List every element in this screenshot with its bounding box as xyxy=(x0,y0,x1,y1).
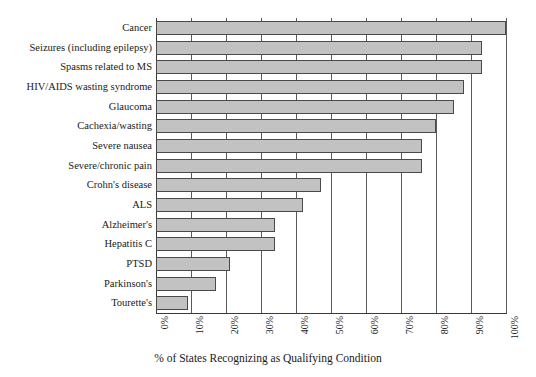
bar xyxy=(156,139,422,153)
bar-row xyxy=(156,218,506,232)
tick-label: 80% xyxy=(440,316,450,334)
bar-row xyxy=(156,100,506,114)
tick-label: 100% xyxy=(510,316,520,339)
category-label: Alzheimer's xyxy=(2,219,152,230)
bar-row xyxy=(156,21,506,35)
category-label: PTSD xyxy=(2,258,152,269)
bar-row xyxy=(156,198,506,212)
bar-row xyxy=(156,60,506,74)
category-label: Crohn's disease xyxy=(2,179,152,190)
category-label: HIV/AIDS wasting syndrome xyxy=(2,81,152,92)
bar-row xyxy=(156,80,506,94)
category-label: ALS xyxy=(2,199,152,210)
bar xyxy=(156,198,303,212)
category-label: Seizures (including epilepsy) xyxy=(2,42,152,53)
bar-row xyxy=(156,277,506,291)
bar-chart: CancerSeizures (including epilepsy)Spasm… xyxy=(0,0,536,377)
category-axis-labels: CancerSeizures (including epilepsy)Spasm… xyxy=(0,18,152,313)
tick-label: 40% xyxy=(300,316,310,334)
bar-row xyxy=(156,178,506,192)
bar xyxy=(156,257,230,271)
plot-area xyxy=(156,18,506,313)
bar-row xyxy=(156,237,506,251)
x-axis-tick-labels: 0%10%20%30%40%50%60%70%80%90%100% xyxy=(156,314,507,348)
bar xyxy=(156,41,482,55)
tick-label: 30% xyxy=(265,316,275,334)
bar xyxy=(156,237,275,251)
category-label: Parkinson's xyxy=(2,278,152,289)
category-label: Spasms related to MS xyxy=(2,61,152,72)
category-label: Glaucoma xyxy=(2,101,152,112)
category-label: Tourette's xyxy=(2,297,152,308)
bar-row xyxy=(156,159,506,173)
tick-label: 10% xyxy=(195,316,205,334)
category-label: Cancer xyxy=(2,22,152,33)
category-label: Cachexia/wasting xyxy=(2,120,152,131)
bar-row xyxy=(156,119,506,133)
tick-label: 60% xyxy=(370,316,380,334)
bar xyxy=(156,80,464,94)
tick-label: 50% xyxy=(335,316,345,334)
bar xyxy=(156,60,482,74)
category-label: Hepatitis C xyxy=(2,238,152,249)
bar xyxy=(156,159,422,173)
category-label: Severe nausea xyxy=(2,140,152,151)
bar xyxy=(156,100,454,114)
bar-row xyxy=(156,139,506,153)
tick-label: 70% xyxy=(405,316,415,334)
bar xyxy=(156,119,436,133)
gridline-100pct xyxy=(506,18,507,313)
bar xyxy=(156,21,506,35)
bar xyxy=(156,218,275,232)
x-axis-title: % of States Recognizing as Qualifying Co… xyxy=(0,352,536,364)
bar-row xyxy=(156,296,506,310)
bar xyxy=(156,277,216,291)
tick-label: 0% xyxy=(160,316,170,329)
category-label: Severe/chronic pain xyxy=(2,160,152,171)
tick-label: 90% xyxy=(475,316,485,334)
bar xyxy=(156,178,321,192)
bar xyxy=(156,296,188,310)
bar-row xyxy=(156,257,506,271)
bar-row xyxy=(156,41,506,55)
tick-label: 20% xyxy=(230,316,240,334)
